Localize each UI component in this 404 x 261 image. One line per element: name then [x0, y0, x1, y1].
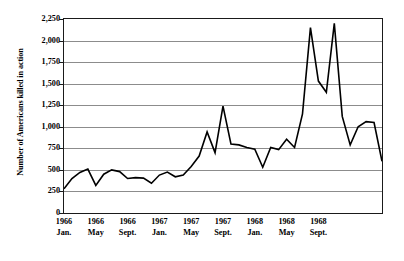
- plot-area: [63, 18, 383, 214]
- y-axis-tick-label: 1,500: [2, 79, 60, 88]
- x-axis-tick-year: 1968: [292, 216, 344, 227]
- x-axis-tick-month: Sept.: [292, 227, 344, 238]
- y-axis-tick-label: 1,750: [2, 57, 60, 66]
- x-axis-tick-label: 1968Sept.: [292, 216, 344, 238]
- y-axis-tick-label: 1,000: [2, 122, 60, 131]
- y-axis-tick-label: 2,000: [2, 36, 60, 45]
- chart-container: Number of Americans killed in action 025…: [0, 0, 404, 261]
- y-axis-tick-label: 750: [2, 143, 60, 152]
- x-axis-tick-labels: 1966Jan.1966May1966Sept.1967Jan.1967May1…: [0, 216, 404, 256]
- y-axis-tick-label: 250: [2, 186, 60, 195]
- y-axis-tick-label: 1,250: [2, 100, 60, 109]
- y-axis-tick-label: 2,250: [2, 14, 60, 23]
- series-line-americans-killed-in-action: [64, 19, 382, 213]
- y-axis-tick-label: 500: [2, 165, 60, 174]
